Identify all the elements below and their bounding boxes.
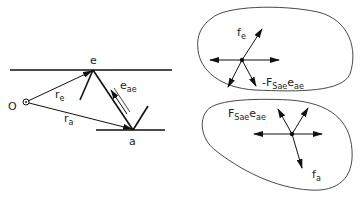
origin-dot [25, 101, 27, 103]
label-pos-force: FSaeeae [228, 107, 266, 122]
label-r-e: re [55, 88, 65, 103]
label-f-a: fa [312, 168, 321, 183]
label-e: e [90, 54, 97, 67]
up-right-arrow-bottom [292, 108, 308, 134]
bottom-body-outline [202, 99, 352, 190]
joint-e-tick [80, 70, 93, 100]
r-a-vector [29, 103, 132, 129]
f-a-arrow [292, 134, 302, 168]
top-body: fe -FSaeeae [198, 7, 353, 91]
label-e-ae: eae [120, 79, 137, 94]
top-body-outline [198, 7, 353, 91]
neg-force-arrow [242, 60, 256, 86]
left-kinematic-diagram: e a O re ra eae [8, 54, 172, 148]
label-neg-force: -FSaeeae [262, 76, 304, 91]
label-origin: O [8, 100, 17, 113]
pos-force-arrow [278, 109, 292, 134]
label-f-e: fe [237, 26, 246, 41]
label-a: a [129, 135, 136, 148]
down-left-arrow-top [228, 60, 242, 87]
mechanism-diagram: e a O re ra eae fe -FSaeeae FSaeeae fa [0, 0, 363, 201]
bottom-body: FSaeeae fa [202, 99, 352, 190]
joint-a-tick [133, 106, 148, 130]
